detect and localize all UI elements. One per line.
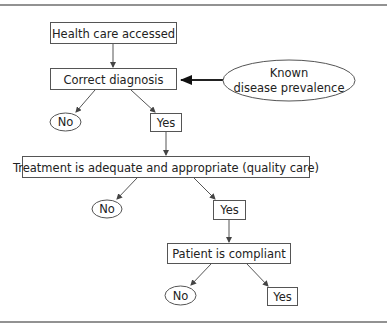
node-label-line2: disease prevalence	[234, 81, 345, 95]
node-label: Yes	[219, 203, 239, 217]
node-patient-compliant: Patient is compliant	[168, 244, 291, 264]
node-treatment-adequate: Treatment is adequate and appropriate (q…	[12, 157, 319, 178]
node-label: Health care accessed	[52, 27, 175, 41]
node-label: Yes	[156, 116, 176, 130]
node-compliant-yes: Yes	[268, 288, 298, 306]
edge-treatment-to-yes	[194, 178, 215, 199]
flowchart: Health care accessed Correct diagnosis K…	[0, 0, 387, 330]
node-treatment-yes: Yes	[214, 201, 246, 220]
node-known-disease-prevalence: Known disease prevalence	[223, 60, 355, 101]
node-label: Correct diagnosis	[64, 73, 164, 87]
node-health-care-accessed: Health care accessed	[51, 23, 177, 44]
node-diagnosis-yes: Yes	[151, 114, 182, 132]
node-label: No	[58, 115, 74, 129]
node-correct-diagnosis: Correct diagnosis	[51, 69, 177, 90]
node-label-line1: Known	[270, 66, 309, 80]
edge-patient-to-no	[191, 264, 211, 285]
edge-treatment-to-no	[117, 178, 137, 199]
node-treatment-no: No	[92, 200, 122, 218]
node-label: No	[173, 289, 189, 303]
node-label: Yes	[272, 290, 292, 304]
node-label: Treatment is adequate and appropriate (q…	[12, 161, 319, 175]
node-diagnosis-no: No	[50, 113, 81, 131]
node-compliant-no: No	[165, 286, 196, 305]
edge-diagnosis-to-no	[76, 90, 95, 112]
node-label: Patient is compliant	[172, 247, 286, 261]
edge-patient-to-yes	[247, 264, 268, 286]
edge-diagnosis-to-yes	[131, 90, 155, 112]
node-label: No	[99, 202, 115, 216]
